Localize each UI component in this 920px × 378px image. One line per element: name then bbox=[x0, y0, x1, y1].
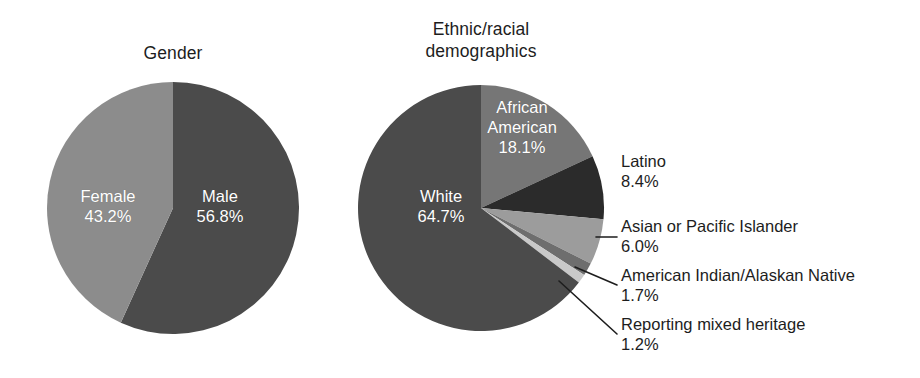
callout-label-mixed-heritage-value: 1.2% bbox=[621, 334, 805, 354]
callout-label-mixed-heritage: Reporting mixed heritage 1.2% bbox=[621, 314, 805, 355]
callout-label-american-indian-name: American Indian/Alaskan Native bbox=[621, 265, 855, 285]
slice-label-male: Male 56.8% bbox=[178, 186, 262, 226]
callout-label-american-indian: American Indian/Alaskan Native 1.7% bbox=[621, 265, 855, 306]
chart-title-ethnic: Ethnic/racial demographics bbox=[390, 18, 572, 62]
callout-label-latino-name: Latino bbox=[621, 151, 666, 171]
slice-label-white-value: 64.7% bbox=[399, 206, 483, 226]
pie-chart-figure: Gender Ethnic/racial demographics Female… bbox=[0, 0, 920, 378]
leader-line-mixed-heritage bbox=[559, 281, 617, 334]
callout-label-latino-value: 8.4% bbox=[621, 171, 666, 191]
callout-label-asian: Asian or Pacific Islander 6.0% bbox=[621, 216, 798, 257]
slice-label-african-american-name: African American bbox=[472, 98, 572, 138]
slice-label-female-value: 43.2% bbox=[60, 206, 156, 226]
slice-label-female: Female 43.2% bbox=[60, 186, 156, 226]
callout-label-mixed-heritage-name: Reporting mixed heritage bbox=[621, 314, 805, 334]
slice-label-white-name: White bbox=[399, 186, 483, 206]
callout-label-asian-name: Asian or Pacific Islander bbox=[621, 216, 798, 236]
slice-label-african-american-value: 18.1% bbox=[472, 138, 572, 158]
slice-label-male-value: 56.8% bbox=[178, 206, 262, 226]
slice-label-female-name: Female bbox=[60, 186, 156, 206]
callout-label-american-indian-value: 1.7% bbox=[621, 285, 855, 305]
callout-label-latino: Latino 8.4% bbox=[621, 151, 666, 192]
slice-label-male-name: Male bbox=[178, 186, 262, 206]
chart-title-gender: Gender bbox=[83, 42, 263, 64]
callout-label-asian-value: 6.0% bbox=[621, 236, 798, 256]
slice-label-african-american: African American 18.1% bbox=[472, 98, 572, 157]
slice-label-white: White 64.7% bbox=[399, 186, 483, 226]
